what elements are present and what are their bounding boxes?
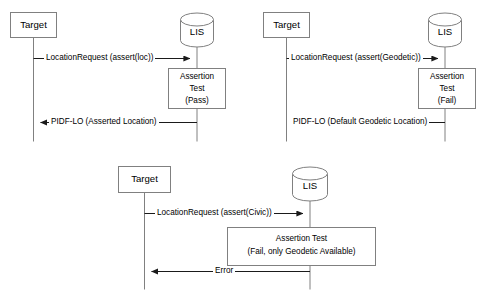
assertion-test-line-2b: Test [418, 84, 476, 94]
response-message-label-1: PIDF-LO (Asserted Location) [49, 117, 159, 127]
lis-actor-label-3: LIS [293, 181, 327, 191]
lis-actor-label-2: LIS [428, 27, 462, 37]
target-actor-label-2: Target [263, 20, 310, 30]
target-actor-label-1: Target [10, 20, 57, 30]
response-message-label-2: PIDF-LO (Default Geodetic Location) [291, 117, 429, 127]
sequence-diagram-canvas: Target LIS LocationRequest (assert(loc))… [0, 0, 488, 294]
assertion-test-line-2c: (Fail) [418, 96, 476, 106]
request-message-label-1: LocationRequest (assert(loc)) [44, 53, 155, 63]
diagram-text-layer: Target LIS LocationRequest (assert(loc))… [0, 0, 488, 294]
target-actor-label-3: Target [118, 174, 171, 184]
request-message-label-2: LocationRequest (assert(Geodetic)) [289, 53, 423, 63]
assertion-test-line-2a: Assertion [418, 72, 476, 82]
assertion-test-line-3a: Assertion Test [227, 234, 376, 244]
assertion-test-line-3b: (Fail, only Geodetic Available) [227, 247, 376, 257]
assertion-test-line-1c: (Pass) [168, 96, 226, 106]
assertion-test-line-1b: Test [168, 84, 226, 94]
response-message-label-3: Error [213, 266, 235, 276]
assertion-test-line-1a: Assertion [168, 72, 226, 82]
lis-actor-label-1: LIS [180, 27, 214, 37]
request-message-label-3: LocationRequest (assert(Civic)) [155, 208, 274, 218]
